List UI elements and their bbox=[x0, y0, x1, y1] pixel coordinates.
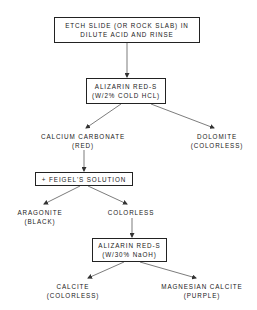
node-alizarin-hcl-line2: (W/2% COLD HCL) bbox=[92, 91, 160, 100]
node-feigel-line1: + FEIGEL'S SOLUTION bbox=[42, 175, 126, 184]
node-colorless-line1: COLORLESS bbox=[108, 208, 155, 217]
node-etch-line1: ETCH SLIDE (OR ROCK SLAB) IN bbox=[65, 21, 189, 30]
edge-alizarin-naoh-to-magnesian-calcite bbox=[140, 262, 196, 278]
node-calcium-carbonate-line1: CALCIUM CARBONATE bbox=[41, 132, 125, 141]
node-dolomite-line1: DOLOMITE bbox=[191, 132, 244, 141]
node-aragonite-line2: (BLACK) bbox=[17, 217, 62, 226]
node-feigels-solution: + FEIGEL'S SOLUTION bbox=[35, 172, 133, 186]
node-calcium-carbonate: CALCIUM CARBONATE (RED) bbox=[41, 132, 125, 150]
node-etch-line2: DILUTE ACID AND RINSE bbox=[80, 30, 173, 39]
node-alizarin-hcl-line1: ALIZARIN RED-S bbox=[95, 82, 157, 91]
edge-alizarin-to-calcium-carbonate bbox=[86, 104, 121, 128]
node-dolomite-line2: (COLORLESS) bbox=[191, 141, 244, 150]
node-calcium-carbonate-line2: (RED) bbox=[41, 141, 125, 150]
edge-feigel-to-aragonite bbox=[44, 186, 80, 204]
node-etch-slide: ETCH SLIDE (OR ROCK SLAB) IN DILUTE ACID… bbox=[54, 17, 200, 43]
node-magnesian-calcite-line1: MAGNESIAN CALCITE bbox=[161, 282, 242, 291]
node-magnesian-calcite-line2: (PURPLE) bbox=[161, 291, 242, 300]
node-calcite-line2: (COLORLESS) bbox=[47, 291, 100, 300]
connector-lines bbox=[0, 0, 257, 310]
node-calcite-line1: CALCITE bbox=[47, 282, 100, 291]
node-dolomite: DOLOMITE (COLORLESS) bbox=[191, 132, 244, 150]
node-alizarin-red-naoh: ALIZARIN RED-S (W/30% NaOH) bbox=[92, 238, 167, 262]
node-alizarin-red-hcl: ALIZARIN RED-S (W/2% COLD HCL) bbox=[86, 78, 166, 104]
edge-alizarin-naoh-to-calcite bbox=[88, 262, 124, 278]
node-aragonite: ARAGONITE (BLACK) bbox=[17, 208, 62, 226]
node-calcite: CALCITE (COLORLESS) bbox=[47, 282, 100, 300]
node-aragonite-line1: ARAGONITE bbox=[17, 208, 62, 217]
node-alizarin-naoh-line1: ALIZARIN RED-S bbox=[98, 241, 160, 250]
node-colorless: COLORLESS bbox=[108, 208, 155, 217]
node-alizarin-naoh-line2: (W/30% NaOH) bbox=[102, 250, 157, 259]
edge-feigel-to-colorless bbox=[88, 186, 127, 204]
node-magnesian-calcite: MAGNESIAN CALCITE (PURPLE) bbox=[161, 282, 242, 300]
edge-alizarin-to-dolomite bbox=[151, 104, 214, 128]
